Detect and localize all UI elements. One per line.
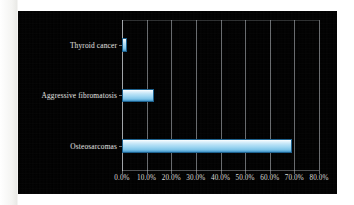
x-tick-label-60.0%: 60.0% xyxy=(260,174,279,182)
x-tick-mark xyxy=(221,171,222,174)
x-tick-label-30.0%: 30.0% xyxy=(186,174,205,182)
bar-aggressive-fibromatosis xyxy=(122,89,154,103)
x-axis-tick-labels: 0.0%10.0%20.0%30.0%40.0%50.0%60.0%70.0%8… xyxy=(122,174,319,188)
x-tick-label-0.0%: 0.0% xyxy=(114,174,129,182)
x-tick-label-40.0%: 40.0% xyxy=(211,174,230,182)
category-tick-mark xyxy=(119,95,122,96)
bar-thyroid-cancer xyxy=(122,38,127,52)
x-tick-label-10.0%: 10.0% xyxy=(137,174,156,182)
x-tick-label-80.0%: 80.0% xyxy=(309,174,328,182)
x-tick-mark xyxy=(122,171,123,174)
x-tick-mark xyxy=(171,171,172,174)
bar-osteosarcomas xyxy=(122,139,292,153)
x-tick-label-50.0%: 50.0% xyxy=(236,174,255,182)
bar-group: Osteosarcomas xyxy=(122,139,319,153)
bar-group: Aggressive fibromatosis xyxy=(122,89,319,103)
chart-panel: Thyroid cancerAggressive fibromatosisOst… xyxy=(18,11,337,194)
x-tick-mark xyxy=(270,171,271,174)
x-tick-label-20.0%: 20.0% xyxy=(162,174,181,182)
category-label-aggressive-fibromatosis: Aggressive fibromatosis xyxy=(42,91,118,100)
x-tick-mark xyxy=(319,171,320,174)
category-label-thyroid-cancer: Thyroid cancer xyxy=(70,41,117,50)
x-tick-label-70.0%: 70.0% xyxy=(285,174,304,182)
figure: Thyroid cancerAggressive fibromatosisOst… xyxy=(0,0,354,205)
bar-group: Thyroid cancer xyxy=(122,38,319,52)
category-tick-mark xyxy=(119,146,122,147)
x-tick-mark xyxy=(147,171,148,174)
x-tick-mark xyxy=(245,171,246,174)
category-label-osteosarcomas: Osteosarcomas xyxy=(70,141,117,150)
category-tick-mark xyxy=(119,45,122,46)
x-tick-mark xyxy=(294,171,295,174)
gridline-80.0% xyxy=(319,20,320,171)
x-tick-mark xyxy=(196,171,197,174)
plot-area: Thyroid cancerAggressive fibromatosisOst… xyxy=(122,20,319,171)
